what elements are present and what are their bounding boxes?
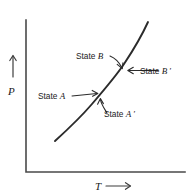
state-b-leader-line <box>110 56 122 68</box>
y-axis-label: P <box>7 85 15 97</box>
state-a-label: State A <box>38 91 66 101</box>
state-a-annotation: State A <box>38 90 98 101</box>
curve-group <box>55 22 148 141</box>
y-axis-indicator: P <box>7 56 16 98</box>
figure-canvas: P T State A State A ′ State B <box>0 0 195 196</box>
state-a-prime-annotation: State A ′ <box>98 99 136 119</box>
state-b-prime-annotation: State B ′ <box>128 66 172 76</box>
x-axis-indicator: T <box>95 180 131 192</box>
state-b-annotation: State B <box>76 51 123 69</box>
x-axis-label: T <box>95 180 102 192</box>
pt-diagram-figure: P T State A State A ′ State B <box>0 0 195 196</box>
state-b-label: State B <box>76 51 104 61</box>
state-a-prime-label: State A ′ <box>104 109 136 119</box>
phase-boundary-curve <box>55 22 148 141</box>
state-b-prime-label: State B ′ <box>140 66 172 76</box>
